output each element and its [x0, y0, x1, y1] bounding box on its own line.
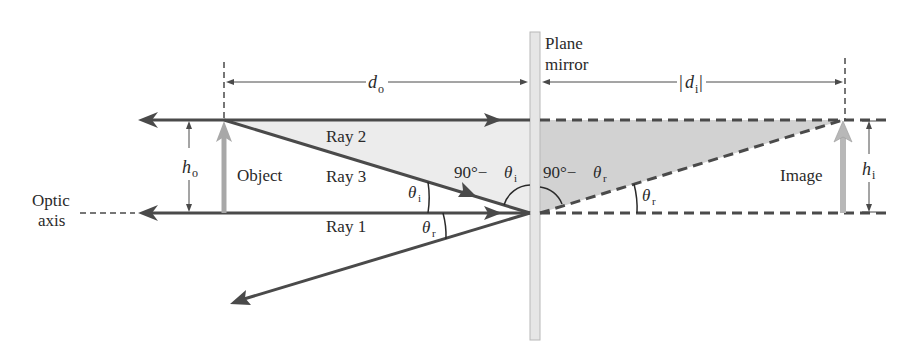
complement-r-theta: θ [593, 163, 601, 182]
d-i-left-arrowhead-icon [542, 79, 550, 85]
d-i-abs-right: | [699, 71, 703, 92]
optic-axis-label-line2: axis [38, 211, 65, 230]
h-o-subscript: o [192, 166, 198, 180]
d-o-subscript: o [378, 82, 384, 96]
h-o-down-arrowhead-icon [186, 204, 192, 212]
h-o-label: h [182, 157, 191, 177]
theta-r-label: θ [422, 218, 430, 237]
complement-i-theta: θ [504, 163, 512, 182]
complement-r-subscript: r [603, 172, 607, 184]
image-label: Image [780, 166, 822, 185]
ray1-label: Ray 1 [326, 217, 366, 236]
h-i-up-arrowhead-icon [866, 121, 872, 129]
ray3-reflected-line [244, 213, 530, 299]
h-i-label: h [862, 159, 871, 179]
d-i-label: d [685, 72, 695, 92]
d-o-right-arrowhead-icon [520, 79, 528, 85]
complement-r-label: 90°− [543, 163, 576, 182]
theta-r-arc [443, 213, 446, 239]
theta-r-virtual-subscript: r [652, 195, 656, 207]
d-o-label: d [368, 72, 378, 92]
d-o-left-arrowhead-icon [226, 79, 234, 85]
complement-i-subscript: i [514, 172, 517, 184]
d-i-abs-left: | [679, 71, 683, 92]
object-label: Object [237, 166, 283, 185]
ray3-label: Ray 3 [326, 167, 366, 186]
plane-mirror [530, 32, 540, 340]
theta-r-virtual-arc [634, 184, 637, 213]
h-i-down-arrowhead-icon [866, 204, 872, 212]
theta-i-arc [428, 182, 429, 213]
h-i-subscript: i [872, 168, 876, 182]
theta-r-subscript: r [432, 227, 436, 239]
theta-r-virtual-label: θ [642, 186, 650, 205]
mirror-label-line2: mirror [545, 55, 589, 74]
mirror-label-line1: Plane [545, 34, 583, 53]
optic-axis-label-line1: Optic [32, 191, 70, 210]
plane-mirror-diagram: Plane mirror Optic axis Object Image Ray… [0, 0, 922, 356]
theta-i-subscript: i [418, 192, 421, 204]
theta-i-label: θ [408, 183, 416, 202]
complement-i-label: 90°− [454, 163, 487, 182]
h-o-up-arrowhead-icon [186, 121, 192, 129]
d-i-right-arrowhead-icon [835, 79, 843, 85]
ray2-label: Ray 2 [326, 127, 366, 146]
